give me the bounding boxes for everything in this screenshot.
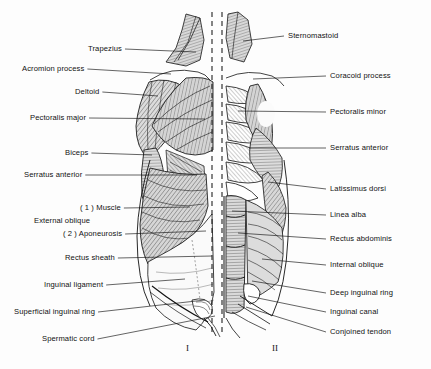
label-latissimus-dorsi: Latissimus dorsi [330,185,386,193]
label-serratus-anterior: Serratus anterior [330,144,388,152]
label-biceps: Biceps [65,149,88,157]
label-deep-inguinal-ring: Deep inguinal ring [330,289,393,297]
label-inguinal-canal: Inguinal canal [330,308,378,316]
label-spermatic-cord: Spermatic cord [42,335,94,343]
label-pectoralis-major: Pectoralis major [30,114,86,122]
label-rectus-sheath: Rectus sheath [65,254,115,262]
label-internal-oblique: Internal oblique [330,261,384,269]
panel-numeral-i: I [186,343,189,353]
label-acromion-process: Acromion process [22,65,84,73]
label-inguinal-ligament: Inguinal ligament [44,281,103,289]
panel-numeral-ii: II [272,343,278,353]
label-coracoid-process: Coracoid process [330,72,391,80]
label-external-oblique: External oblique [34,217,90,225]
label-1-muscle: ( 1 ) Muscle [80,204,121,212]
label-deltoid: Deltoid [75,88,99,96]
label-serratus-anterior: Serratus anterior [24,171,82,179]
label-superficial-inguinal-ring: Superficial inguinal ring [14,308,95,316]
label-sternomastoid: Sternomastoid [288,32,338,40]
label-pectoralis-minor: Pectoralis minor [330,108,386,116]
label-conjoined-tendon: Conjoined tendon [330,328,391,336]
label-trapezius: Trapezius [88,45,122,53]
rectus-abdominis-muscle [226,196,246,314]
label-linea-alba: Linea alba [330,211,366,219]
label-2-aponeurosis: ( 2 ) Aponeurosis [63,230,122,238]
label-rectus-abdominis: Rectus abdominis [330,235,392,243]
